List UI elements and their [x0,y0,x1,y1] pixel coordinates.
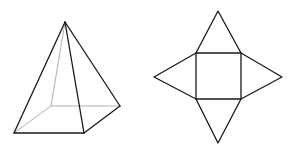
net-triangle-top [196,11,241,53]
edge-apex-frontright [65,22,84,133]
hidden-edge-apex-backleft [51,22,65,106]
figure-canvas [0,0,295,151]
edge-base-right [84,106,120,133]
net-triangle-right [241,53,282,99]
pyramid-net [154,11,282,143]
square-pyramid [14,22,120,133]
edge-apex-frontleft [14,22,65,133]
edge-apex-backright [65,22,120,106]
net-square-base [196,53,241,99]
net-triangle-left [154,53,196,99]
net-triangle-bottom [196,99,241,143]
